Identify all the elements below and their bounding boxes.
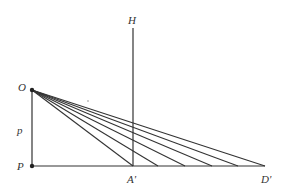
perspective-diagram: H O p P A' D': [0, 0, 290, 194]
stray-dot: [87, 100, 88, 101]
ray-2: [32, 90, 158, 166]
label-h: H: [127, 14, 137, 26]
rays: [32, 90, 265, 166]
label-o: O: [18, 81, 26, 93]
label-a-prime: A': [126, 173, 137, 185]
point-o: [30, 88, 34, 92]
ray-6: [32, 90, 265, 166]
ray-4: [32, 90, 212, 166]
ray-5: [32, 90, 238, 166]
label-p-segment: p: [16, 124, 23, 136]
label-p-point: P: [16, 160, 24, 172]
ray-3: [32, 90, 185, 166]
point-p: [30, 164, 34, 168]
label-d-prime: D': [260, 173, 272, 185]
ray-1: [32, 90, 133, 166]
